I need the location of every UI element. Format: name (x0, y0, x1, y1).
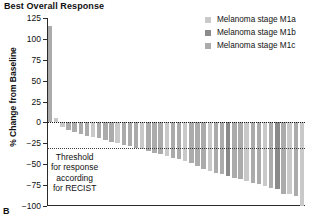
legend-label: Melanoma stage M1a (217, 15, 296, 24)
bar (294, 122, 299, 196)
bar (226, 122, 231, 175)
bar (232, 122, 237, 177)
bar (244, 122, 249, 180)
bar (195, 122, 200, 165)
annotation-line: Threshold (51, 152, 98, 163)
y-tick (43, 18, 47, 19)
bar (103, 122, 108, 140)
zero-reference-line (47, 122, 305, 123)
bar (115, 122, 120, 143)
bar (122, 122, 127, 145)
bar (97, 122, 102, 138)
legend-item: Melanoma stage M1b (205, 26, 296, 39)
recist-threshold-line (47, 148, 305, 149)
legend-label: Melanoma stage M1b (217, 28, 296, 37)
annotation-line: according (51, 173, 98, 184)
bar (165, 122, 170, 155)
bar (263, 122, 268, 186)
bar (85, 122, 90, 135)
y-tick-label: 100 (27, 34, 41, 44)
y-tick-label: 0 (36, 117, 41, 127)
y-tick (43, 102, 47, 103)
legend-swatch-icon (205, 43, 211, 49)
bar (201, 122, 206, 169)
threshold-annotation: Thresholdfor responseaccordingfor RECIST (51, 152, 98, 194)
legend-swatch-icon (205, 30, 211, 36)
y-axis-title: % Change from Baseline (8, 37, 18, 157)
best-overall-response-chart: Best Overall Response % Change from Base… (0, 0, 309, 220)
legend-swatch-icon (205, 17, 211, 23)
bar (171, 122, 176, 157)
bar (66, 122, 71, 130)
bar (281, 122, 286, 194)
y-tick (43, 206, 47, 207)
bar (128, 122, 133, 145)
y-tick (43, 60, 47, 61)
y-tick (43, 39, 47, 40)
bar (48, 26, 53, 122)
bar (91, 122, 96, 137)
y-tick (43, 81, 47, 82)
y-tick-label: 25 (32, 97, 41, 107)
bar (158, 122, 163, 154)
y-tick-label: 50 (32, 76, 41, 86)
legend-label: Melanoma stage M1c (217, 41, 295, 50)
y-tick (43, 143, 47, 144)
legend-item: Melanoma stage M1c (205, 39, 296, 52)
chart-title: Best Overall Response (4, 1, 104, 11)
y-tick-label: −25 (27, 138, 41, 148)
bar (269, 122, 274, 187)
legend: Melanoma stage M1aMelanoma stage M1bMela… (205, 13, 296, 52)
bar (300, 122, 305, 206)
bar (140, 122, 145, 149)
bar (251, 122, 256, 182)
bar (257, 122, 262, 184)
y-tick (43, 164, 47, 165)
y-tick (43, 185, 47, 186)
bar (275, 122, 280, 189)
bar (109, 122, 114, 141)
bar (183, 122, 188, 160)
annotation-line: for RECIST (51, 183, 98, 194)
bar (79, 122, 84, 134)
legend-item: Melanoma stage M1a (205, 13, 296, 26)
bar (238, 122, 243, 179)
y-tick-label: −75 (27, 180, 41, 190)
y-tick-label: −50 (27, 159, 41, 169)
bar (177, 122, 182, 159)
y-tick-label: 125 (27, 13, 41, 23)
bar (72, 122, 77, 132)
annotation-line: for response (51, 162, 98, 173)
panel-label: B (3, 206, 10, 216)
bar (189, 122, 194, 162)
y-tick-label: −100 (22, 201, 41, 211)
bar (134, 122, 139, 147)
bar (287, 122, 292, 194)
y-tick-label: 75 (32, 55, 41, 65)
